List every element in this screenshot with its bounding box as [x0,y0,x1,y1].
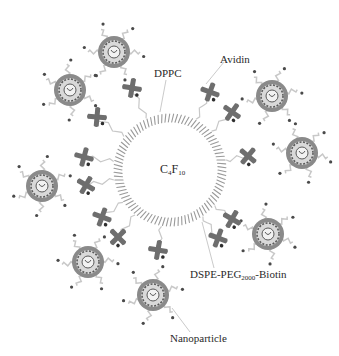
lipid-molecule [122,195,130,198]
avidin-shape [197,79,223,105]
lipid-molecule [141,212,146,218]
biotin-dot [68,118,71,121]
lipid-molecule [128,133,133,139]
lipid-molecule [207,201,212,207]
lipid-molecule [194,122,199,128]
biotin-dot [12,195,15,198]
dspe-peg-sub: 2000 [241,274,255,282]
biotin-dot [73,234,76,237]
lipid-molecule [211,142,219,145]
biotin-dot [103,235,106,238]
np-peg-arm [101,29,107,39]
np-peg-arm [285,165,292,174]
lipid-molecule [209,198,214,204]
np-peg-arm [46,79,56,84]
biotin-dot [291,216,294,219]
biotin-dot [272,142,275,145]
biotin-dot [322,131,325,134]
lipid-molecule [191,213,193,221]
avidin-shape [218,98,246,126]
biotin-dot [123,78,126,81]
lipid-molecule [216,156,224,157]
np-peg-arm [164,305,172,312]
avidin [205,225,231,251]
np-peg-arm [311,133,318,142]
biotin-dot [258,122,261,125]
lipid-molecule [162,218,165,226]
biotin-dot [142,55,145,58]
core-c: C [160,162,168,176]
lipid-molecule [216,183,223,187]
biotin-dot [95,74,98,77]
lipid-molecule [200,208,204,215]
lipid-molecule [114,164,122,166]
nanoparticle [272,122,332,184]
nanoparticle [83,22,146,81]
avidin-leader-line [206,62,224,84]
np-peg-arm [73,241,80,250]
avidin-biotin-dot [219,243,224,248]
nanoparticle [12,155,72,217]
np-peg-arm [39,201,43,212]
lipid-molecule [143,121,146,129]
avidin [218,98,246,126]
np-peg-arm [306,167,311,177]
biotin-dot [43,73,46,76]
avidin-biotin-dot [246,162,251,167]
np-peg-arm [276,147,287,152]
np-peg-arm [243,225,253,230]
lipid-molecule [217,180,224,183]
np-peg-arm [129,299,139,304]
np-peg-arm [70,105,74,116]
np-peg-arm [55,174,65,180]
lipid-molecule [215,152,223,153]
avidin-shape [89,204,115,230]
diagram-canvas [0,0,339,356]
np-peg-arm [49,99,58,106]
biotin-dot [56,259,59,262]
avidin-shape [218,205,245,232]
np-peg-arm [276,71,281,82]
lipid-molecule [168,114,169,122]
lipid-molecule [120,146,127,151]
lipid-molecule [178,115,181,123]
np-peg-arm [121,65,127,75]
lipid-molecule [140,123,143,131]
lipid-molecule [205,203,210,210]
lipid-molecule [114,176,122,177]
avidin [72,171,99,198]
lipid-molecule [211,195,217,201]
lipid-molecule [117,153,124,157]
dspe-peg-tether [97,117,124,137]
lipid-molecule [120,193,128,195]
biotin-dot [132,271,135,274]
nanoparticle [122,265,184,325]
avidin-biotin-dot [211,97,216,102]
biotin-dot [63,204,66,207]
lipid-molecule [151,117,152,125]
avidin-shape [205,225,231,251]
np-peg-arm [19,192,29,198]
np-peg-arm [94,238,100,248]
biotin-dot [283,67,286,70]
lipid-molecule [174,218,175,226]
lipid-molecule [197,210,200,218]
lipid-molecule [170,218,171,226]
avidin-biotin-dot [135,93,139,97]
biotin-dot [253,70,256,73]
np-peg-arm [270,249,275,260]
np-peg-arm [129,50,140,54]
lipid-molecule [218,173,226,175]
lipid-molecule [214,190,221,195]
np-peg-arm [62,262,73,266]
lipid-molecule [218,163,226,164]
lipid-molecule [154,116,155,124]
biotin-dot [122,299,125,302]
lipid-molecule [215,186,222,190]
lipid-molecule [116,157,123,160]
avidin-biotin-dot [231,118,236,123]
np-peg-arm [282,238,292,243]
avidin-label: Avidin [220,54,250,65]
avidin [197,79,223,105]
lipid-molecule [182,116,186,123]
